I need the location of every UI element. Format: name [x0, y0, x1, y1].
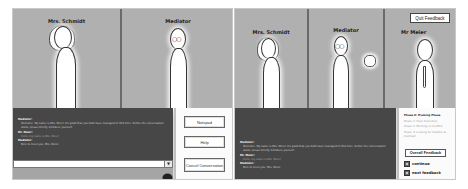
glasses-icon: ○○ — [335, 42, 343, 49]
phase-list: Phase 0: Framing Phase Phase 1: Topic Co… — [404, 113, 456, 139]
phase-item[interactable]: Phase 3: Looking for Solution & Contract — [404, 130, 456, 138]
character-pane-mediator: Mediator ○○ — [309, 9, 383, 108]
character-name: Mrs. Schmidt — [13, 18, 120, 24]
thought-bubble-icon — [364, 55, 376, 67]
chevron-down-icon[interactable]: ▼ — [164, 161, 172, 167]
phase-item[interactable]: Phase 2: Working on Conflict — [404, 124, 456, 128]
speech-bubble-icon[interactable] — [162, 168, 173, 178]
character-stage: Mrs. Schmidt Mediator ○○ Mr Meier — [235, 9, 456, 108]
next-feedback-label: next feedback — [412, 171, 441, 175]
feedback-screen: Mrs. Schmidt Mediator ○○ Mr Meier — [234, 8, 456, 180]
continue-icon — [404, 161, 410, 167]
next-feedback-button[interactable]: next feedback — [404, 170, 441, 176]
tie-icon — [423, 66, 426, 88]
phase-item[interactable]: Phase 1: Topic Collection — [404, 119, 456, 123]
continue-button[interactable]: continue — [404, 161, 430, 167]
next-feedback-icon — [404, 170, 410, 176]
quit-feedback-button[interactable]: Quit Feedback — [410, 13, 450, 23]
input-footer — [13, 168, 173, 180]
help-button[interactable]: Help — [184, 136, 225, 148]
chat-message: Welcome. My name is Mrs. Meier. It's goo… — [240, 145, 391, 153]
conversation-screen: Mrs. Schmidt Mediator ○○ Mediator: Welco… — [12, 8, 233, 180]
chat-log: Mediator: Welcome. My name is Mrs. Meier… — [235, 108, 396, 180]
character-pane-mediator: Mediator ○○ — [122, 9, 233, 108]
notepad-button[interactable]: Notepad — [184, 116, 225, 128]
character-name: Mediator — [122, 18, 233, 24]
overall-feedback-button[interactable]: Overall Feedback — [405, 149, 446, 157]
character-name: Mr Meier — [385, 29, 456, 35]
character-name: Mrs. Schmidt — [235, 29, 307, 35]
chat-message: Nice to meet you, Mrs. Meier. — [18, 143, 168, 147]
continue-label: continue — [412, 162, 430, 166]
chat-log: Mediator: Welcome. My name is Mrs. Meier… — [13, 108, 173, 160]
character-pane-mr-meier: Mr Meier — [385, 9, 456, 108]
response-select[interactable]: ▼ — [13, 160, 173, 168]
cancel-conversation-button[interactable]: Cancel Conversation — [184, 158, 225, 172]
character-pane-mrs-schmidt: Mrs. Schmidt — [235, 9, 307, 108]
side-panel: Notepad Help Cancel Conversation — [174, 108, 233, 180]
phase-item[interactable]: Phase 0: Framing Phase — [404, 113, 456, 117]
character-pane-mrs-schmidt: Mrs. Schmidt — [13, 9, 120, 108]
chat-message: Nice to meet you, Mrs. Meier. — [240, 166, 391, 170]
character-stage: Mrs. Schmidt Mediator ○○ — [13, 9, 233, 108]
feedback-side-panel: Phase 0: Framing Phase Phase 1: Topic Co… — [397, 108, 456, 180]
character-name: Mediator — [309, 27, 383, 33]
glasses-icon: ○○ — [172, 35, 180, 42]
chat-message: Welcome. My name is Mrs. Meier. It's goo… — [18, 122, 168, 130]
